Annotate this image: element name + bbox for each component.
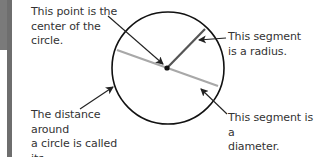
center-label: This point is the center of the circle. [31, 5, 121, 49]
radius-segment [167, 29, 205, 68]
diameter-label: This segment is a diameter. [228, 111, 319, 155]
radius-label: This segment is a radius. [228, 30, 318, 59]
circumference-label: The distance around a circle is called i… [31, 108, 126, 157]
radius-arrow [199, 38, 226, 40]
center-dot [164, 65, 169, 70]
circumference-arrow [80, 87, 113, 109]
